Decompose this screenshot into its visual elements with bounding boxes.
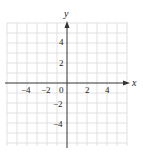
coordinate-plane — [0, 0, 143, 152]
x-axis-label: x — [132, 78, 136, 88]
x-tick-2: 2 — [85, 86, 90, 95]
y-axis-arrow-icon — [65, 21, 70, 28]
y-tick-4: 4 — [59, 38, 64, 47]
y-tick-neg2: −2 — [53, 100, 63, 109]
origin-label: 0 — [59, 86, 64, 95]
y-tick-neg4: −4 — [53, 120, 63, 129]
y-axis-label: y — [64, 9, 68, 19]
y-tick-2: 2 — [59, 59, 64, 68]
x-tick-neg2: −2 — [41, 86, 51, 95]
y-axis — [65, 21, 70, 148]
x-axis-arrow-icon — [123, 81, 130, 86]
x-tick-neg4: −4 — [21, 86, 31, 95]
x-tick-4: 4 — [105, 86, 110, 95]
